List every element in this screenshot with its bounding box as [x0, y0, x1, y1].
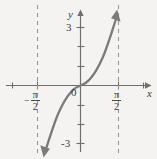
minus-sign: −	[24, 95, 30, 106]
y-tick-label-3: 3	[66, 22, 72, 33]
y-tick-label-neg3: -3	[61, 138, 70, 149]
origin-label: 0	[71, 87, 77, 98]
pi-symbol-left: π	[31, 89, 40, 100]
x-axis-label: x	[147, 88, 152, 99]
curve-arrow-up	[111, 10, 121, 22]
graph-canvas	[0, 0, 157, 159]
x-tick-label-neg-pi-over-2: − π 2	[24, 89, 40, 112]
pi-symbol-right: π	[112, 89, 121, 100]
y-axis	[77, 10, 83, 153]
x-tick-label-pi-over-2: π 2	[112, 89, 121, 112]
curve-arrow-down	[40, 145, 50, 157]
y-axis-label: y	[68, 9, 73, 20]
denominator-right: 2	[112, 101, 121, 112]
denominator-left: 2	[31, 101, 40, 112]
tangent-graph-figure: y x 3 -3 0 − π 2 π 2	[0, 0, 157, 159]
